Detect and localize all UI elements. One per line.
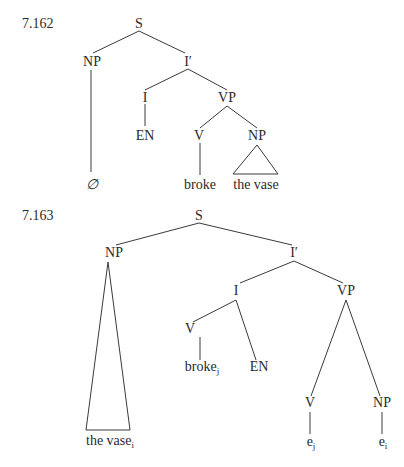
node-i: I — [143, 91, 148, 105]
node-i-bar: I′ — [290, 246, 298, 260]
example-number: 7.162 — [22, 17, 54, 31]
node-np-subject: NP — [83, 55, 101, 69]
node-v-trace: V — [305, 396, 315, 410]
tree-branches — [0, 0, 404, 467]
leaf-broke-text: broke — [185, 359, 217, 374]
node-vp: VP — [337, 284, 355, 298]
leaf-broke: broke — [184, 178, 216, 192]
example-number: 7.163 — [22, 209, 54, 223]
node-i: I — [234, 284, 239, 298]
node-i-bar: I′ — [184, 55, 192, 69]
node-vp: VP — [218, 91, 236, 105]
node-v-in-i: V — [185, 322, 195, 336]
node-s: S — [195, 209, 203, 223]
index-j: j — [217, 366, 220, 376]
node-np-object: NP — [248, 129, 266, 143]
node-v: V — [194, 129, 204, 143]
node-en: EN — [136, 129, 155, 143]
index-i: i — [131, 440, 134, 450]
index-j: j — [313, 441, 316, 451]
leaf-the-vase-i: the vasei — [86, 434, 134, 448]
leaf-the-vase: the vase — [233, 178, 278, 192]
leaf-trace-np: ei — [379, 435, 388, 449]
leaf-trace-v: ej — [307, 435, 316, 449]
subject-text: the vase — [86, 433, 131, 448]
node-s: S — [135, 17, 143, 31]
leaf-empty: ∅ — [86, 178, 98, 192]
leaf-broke-j: brokej — [185, 360, 219, 374]
node-np-subject: NP — [105, 246, 123, 260]
node-np-trace: NP — [373, 396, 391, 410]
node-en: EN — [250, 360, 269, 374]
index-i: i — [385, 441, 388, 451]
